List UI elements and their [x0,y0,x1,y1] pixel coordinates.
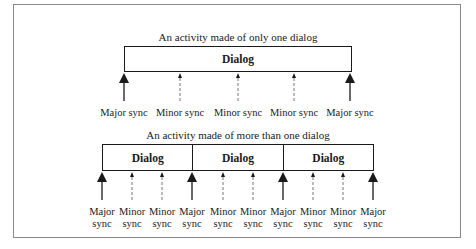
sync-label-minor: Minorsync [330,206,356,230]
sync-label-major: Majorsync [360,206,386,230]
arrowhead-icon [160,172,164,177]
bottom-sync-arrows [0,0,476,249]
arrowhead-icon [97,172,107,182]
sync-label-major: Majorsync [179,206,205,230]
arrowhead-icon [341,172,345,177]
arrowhead-icon [251,172,255,177]
sync-label-major: Majorsync [89,206,115,230]
arrowhead-icon [221,172,225,177]
arrowhead-icon [187,172,197,182]
arrowhead-icon [278,172,288,182]
sync-label-major: Majorsync [270,206,296,230]
arrowhead-icon [130,172,134,177]
sync-label-minor: Minorsync [119,206,145,230]
sync-label-minor: Minorsync [210,206,236,230]
sync-label-minor: Minorsync [240,206,266,230]
sync-label-minor: Minorsync [149,206,175,230]
arrowhead-icon [311,172,315,177]
arrowhead-icon [368,172,378,182]
sync-label-minor: Minorsync [300,206,326,230]
